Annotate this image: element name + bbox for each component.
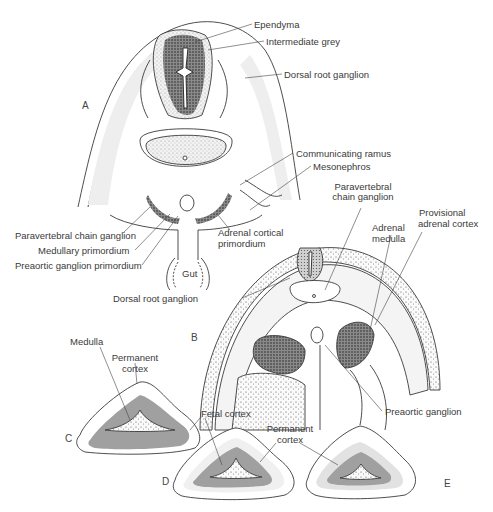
label-paravertebral-chain-ganglion-a: Paravertebral chain ganglion — [15, 230, 136, 241]
label-fetal-cortex: Fetal cortex — [201, 408, 251, 419]
panel-e-adrenal — [306, 426, 415, 499]
panel-b-section — [200, 248, 440, 430]
label-paravertebral-b-line2: chain ganglion — [328, 191, 398, 202]
label-medullary-primordium: Medullary primordium — [38, 245, 129, 256]
panel-label-c: C — [65, 433, 72, 444]
label-permanent-cortex-de-line2: cortex — [265, 434, 315, 445]
panel-c-adrenal — [77, 382, 200, 454]
label-provisional-adrenal-cortex-line2: adrenal cortex — [418, 218, 478, 229]
label-medulla: Medulla — [70, 336, 103, 347]
label-dorsal-root-ganglion-b: Dorsal root ganglion — [113, 293, 198, 304]
panel-label-e: E — [444, 478, 451, 489]
label-communicating-ramus: Communicating ramus — [296, 148, 391, 159]
panel-label-b: B — [191, 332, 198, 343]
label-dorsal-root-ganglion-a: Dorsal root ganglion — [284, 69, 369, 80]
label-permanent-cortex-de-line1: Permanent — [265, 423, 315, 434]
label-provisional-adrenal-cortex-line1: Provisional — [419, 207, 465, 218]
diagram-canvas — [0, 0, 493, 512]
panel-label-a: A — [82, 100, 89, 111]
label-permanent-cortex-c-line2: cortex — [110, 363, 160, 374]
label-preaortic-ganglion: Preaortic ganglion — [385, 406, 462, 417]
label-gut: Gut — [182, 268, 197, 279]
label-ependyma: Ependyma — [254, 19, 299, 30]
label-preaortic-ganglion-primordium: Preaortic ganglion primordium — [15, 260, 142, 271]
label-adrenal-cortical-primordium-line1: Adrenal cortical — [218, 227, 283, 238]
panel-label-d: D — [162, 476, 169, 487]
label-adrenal-medulla-line2: medulla — [372, 233, 405, 244]
label-intermediate-grey: Intermediate grey — [266, 36, 340, 47]
label-mesonephros: Mesonephros — [313, 161, 371, 172]
label-adrenal-medulla-line1: Adrenal — [372, 222, 405, 233]
label-adrenal-cortical-primordium-line2: primordium — [218, 238, 266, 249]
label-permanent-cortex-c-line1: Permanent — [110, 352, 160, 363]
